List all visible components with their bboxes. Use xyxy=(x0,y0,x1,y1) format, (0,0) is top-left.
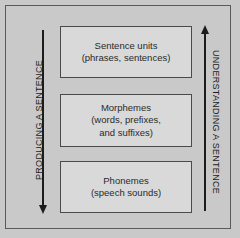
understanding-arrow-shaft xyxy=(204,32,206,211)
understanding-a-sentence-label: UNDERSTANDING A SENTENCE xyxy=(211,50,221,190)
concept-box-line: (phrases, sentences) xyxy=(82,52,171,65)
concept-box-line: (speech sounds) xyxy=(91,187,161,200)
concept-box-line: Morphemes xyxy=(101,102,151,115)
arrow-down-icon xyxy=(39,205,47,214)
concept-box-phonemes: Phonemes (speech sounds) xyxy=(60,161,192,213)
concept-box-sentence-units: Sentence units (phrases, sentences) xyxy=(60,26,192,78)
concept-box-line: and suffixes) xyxy=(99,127,153,140)
language-levels-diagram: PRODUCING A SENTENCE UNDERSTANDING A SEN… xyxy=(0,0,240,238)
diagram-frame: PRODUCING A SENTENCE UNDERSTANDING A SEN… xyxy=(5,5,231,229)
concept-box-line: Sentence units xyxy=(95,40,158,53)
concept-box-line: (words, prefixes, xyxy=(91,114,161,127)
concept-box-line: Phonemes xyxy=(103,175,148,188)
arrow-up-icon xyxy=(201,25,209,34)
producing-a-sentence-label: PRODUCING A SENTENCE xyxy=(34,50,44,190)
concept-box-morphemes: Morphemes (words, prefixes, and suffixes… xyxy=(60,94,192,147)
